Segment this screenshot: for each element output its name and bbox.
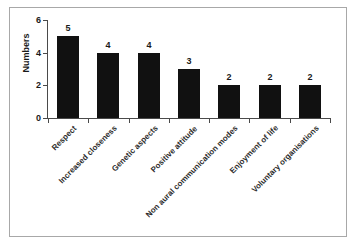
- y-tick-label: 2: [27, 81, 41, 90]
- y-tick-mark: [43, 20, 48, 21]
- x-tick-mark: [88, 119, 89, 123]
- bar[interactable]: [57, 36, 79, 118]
- bar[interactable]: [97, 53, 119, 118]
- bar-value-label: 3: [186, 57, 191, 66]
- bar-value-label: 2: [307, 73, 312, 82]
- x-tick-mark: [290, 119, 291, 123]
- x-tick-mark: [330, 119, 331, 123]
- x-tick-mark: [209, 119, 210, 123]
- chart-figure: Numbers 0246 5443222 RespectIncreased cl…: [0, 0, 358, 247]
- bar-value-label: 2: [226, 73, 231, 82]
- x-axis-line: [47, 118, 331, 119]
- x-tick-mark: [129, 119, 130, 123]
- bar-value-label: 4: [105, 41, 110, 50]
- bar[interactable]: [178, 69, 200, 118]
- x-tick-mark: [169, 119, 170, 123]
- bar[interactable]: [299, 85, 321, 118]
- y-axis-line: [47, 20, 48, 119]
- x-tick-mark: [249, 119, 250, 123]
- x-tick-mark: [48, 119, 49, 123]
- bar-value-label: 2: [267, 73, 272, 82]
- bar[interactable]: [138, 53, 160, 118]
- bar-value-label: 4: [146, 41, 151, 50]
- y-tick-label: 6: [27, 16, 41, 25]
- bar[interactable]: [218, 85, 240, 118]
- bar[interactable]: [259, 85, 281, 118]
- y-tick-label: 0: [27, 114, 41, 123]
- y-tick-mark: [43, 85, 48, 86]
- y-tick-label: 4: [27, 49, 41, 58]
- bar-value-label: 5: [65, 24, 70, 33]
- y-tick-mark: [43, 53, 48, 54]
